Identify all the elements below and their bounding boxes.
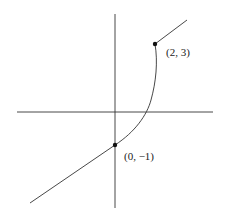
point-2-3 [153,42,157,46]
point-0-neg1 [113,143,117,147]
label-point-2-3: (2, 3) [166,46,190,59]
label-point-0-neg1: (0, −1) [124,150,154,163]
function-graph: (2, 3) (0, −1) [0,0,225,215]
upper-ray [155,20,187,44]
lower-ray [30,145,115,203]
arc-curve [115,44,156,145]
